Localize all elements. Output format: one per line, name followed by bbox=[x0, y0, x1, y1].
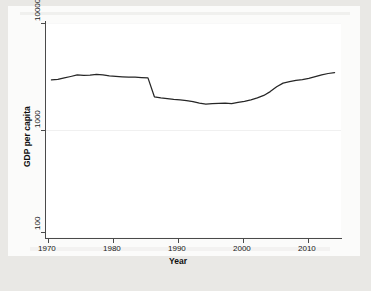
x-tick-mark-2010 bbox=[308, 239, 309, 243]
y-tick-label-100: 100 bbox=[33, 217, 42, 230]
x-tick-mark-1980 bbox=[113, 239, 114, 243]
y-axis-title: GDP per capita bbox=[22, 106, 32, 167]
x-axis-title: Year bbox=[169, 256, 187, 266]
y-axis-line bbox=[45, 21, 46, 239]
x-tick-label-1980: 1980 bbox=[103, 244, 121, 253]
chart-svg bbox=[45, 23, 341, 238]
y-tick-mark-10000 bbox=[41, 23, 45, 24]
x-tick-mark-1990 bbox=[178, 239, 179, 243]
x-tick-mark-2000 bbox=[243, 239, 244, 243]
x-tick-label-1990: 1990 bbox=[168, 244, 186, 253]
data-line-gdp-per-capita bbox=[51, 73, 334, 105]
gridlines bbox=[45, 23, 341, 238]
y-tick-label-10000: 10000 bbox=[33, 0, 42, 21]
scan-blotch-right bbox=[359, 0, 371, 291]
x-axis-line bbox=[45, 238, 342, 239]
figure-canvas: 10000 1000 100 GDP per capita 1970 1980 … bbox=[0, 0, 371, 291]
x-tick-label-1970: 1970 bbox=[38, 244, 56, 253]
y-tick-label-1000: 1000 bbox=[33, 110, 42, 128]
x-tick-mark-1970 bbox=[48, 239, 49, 243]
plot-area bbox=[45, 23, 341, 238]
y-tick-mark-100 bbox=[41, 232, 45, 233]
y-tick-mark-1000 bbox=[41, 130, 45, 131]
x-tick-label-2010: 2010 bbox=[298, 244, 316, 253]
x-tick-label-2000: 2000 bbox=[233, 244, 251, 253]
